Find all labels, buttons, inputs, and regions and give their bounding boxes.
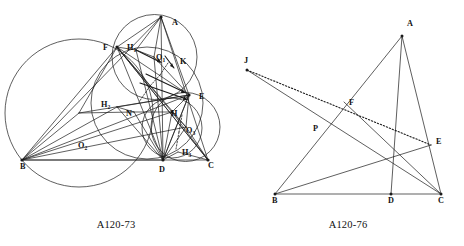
- figure-a120-73: AFH1O1KEH2NHO3O2H3BDC: [0, 0, 232, 246]
- label-a: A: [407, 19, 413, 28]
- label-a: A: [172, 18, 178, 27]
- segment-c-f-right: [344, 102, 441, 194]
- label-d: D: [388, 196, 394, 205]
- vertex-a: [159, 15, 162, 18]
- vertex-d: [161, 158, 164, 161]
- arrow-mid2-e: [140, 83, 186, 99]
- figure-a120-76: AJFPEBDC: [232, 0, 464, 246]
- caption-a120-73: A120-73: [0, 219, 232, 230]
- figure-sheet: AFH1O1KEH2NHO3O2H3BDC: [0, 0, 464, 246]
- segment-h1-a: [136, 17, 161, 50]
- figure-a120-76-canvas: AJFPEBDC: [232, 0, 464, 215]
- segment-d-h2: [117, 107, 163, 160]
- label-o3: O3: [186, 126, 195, 136]
- label-f: F: [103, 43, 108, 52]
- label-c: C: [438, 196, 444, 205]
- segment-b-o2: [22, 113, 79, 160]
- label-d: D: [159, 165, 165, 174]
- segment-b-e-right: [275, 145, 431, 194]
- vertex-j-right: [246, 69, 249, 72]
- label-n: N: [126, 109, 132, 118]
- label-c: C: [208, 161, 214, 170]
- label-b: B: [272, 196, 278, 205]
- segment-h2-b: [22, 107, 117, 160]
- label-o1: O1: [156, 53, 165, 63]
- segment-f-o2: [79, 47, 117, 113]
- label-h: H: [171, 109, 178, 118]
- label-o2: O2: [78, 141, 87, 151]
- label-k: K: [180, 57, 187, 66]
- segment-ab-right: [275, 36, 402, 194]
- label-h3: H3: [182, 148, 191, 158]
- vertex-a-right: [401, 35, 404, 38]
- vertex-e: [187, 93, 190, 96]
- dotted-j-e: [247, 70, 431, 145]
- label-h2: H2: [101, 100, 110, 110]
- segment-a-d-right: [391, 36, 402, 194]
- segment-ac-right: [402, 36, 441, 194]
- segment-f-a: [117, 17, 161, 47]
- segment-ab: [22, 17, 161, 160]
- label-b: B: [20, 162, 26, 171]
- segment-j-c: [247, 70, 441, 194]
- caption-a120-76: A120-76: [232, 219, 464, 230]
- vertex-f: [115, 45, 118, 48]
- label-e: E: [436, 137, 442, 146]
- label-e: E: [199, 92, 205, 101]
- label-h1: H1: [127, 43, 136, 53]
- label-j: J: [244, 56, 248, 65]
- label-f: F: [349, 98, 354, 107]
- figure-a120-73-canvas: AFH1O1KEH2NHO3O2H3BDC: [0, 0, 232, 215]
- segment-h-d: [163, 112, 172, 160]
- label-p: P: [313, 124, 318, 133]
